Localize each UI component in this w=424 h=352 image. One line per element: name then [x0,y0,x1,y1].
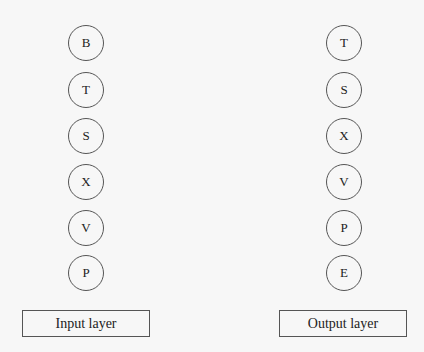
input-node-s: S [68,118,104,154]
output-node-t: T [326,25,362,61]
input-node-t: T [68,72,104,108]
output-node-v: V [326,164,362,200]
output-node-e: E [326,255,362,291]
output-node-s: S [326,72,362,108]
output-node-x: X [326,118,362,154]
input-node-b: B [68,25,104,61]
input-layer-label: Input layer [22,310,150,337]
output-node-p: P [326,210,362,246]
input-node-p: P [68,255,104,291]
input-node-x: X [68,164,104,200]
input-node-v: V [68,210,104,246]
output-layer-label: Output layer [279,310,407,337]
